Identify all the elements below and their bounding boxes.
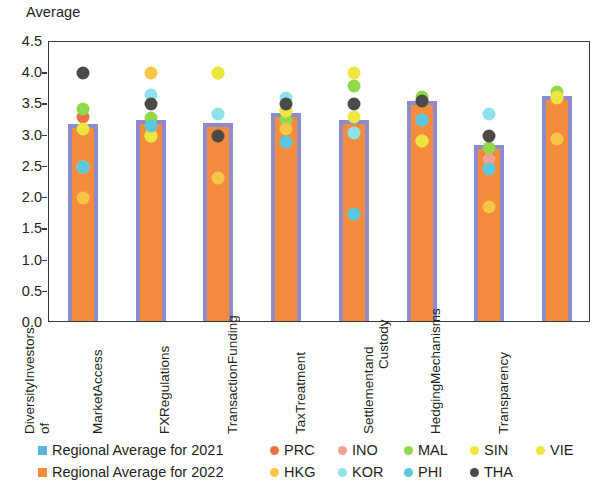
- y-axis-tick-mark: [42, 72, 47, 73]
- data-point-mal: [483, 142, 496, 155]
- legend-label: PHI: [418, 464, 442, 480]
- data-point-phi: [280, 135, 293, 148]
- data-point-tha: [347, 98, 360, 111]
- data-point-hkg: [483, 201, 496, 214]
- data-point-hkg: [212, 171, 225, 184]
- y-axis-tick-label: 2.0: [2, 190, 42, 205]
- y-axis-tick-label: 0.5: [2, 284, 42, 299]
- chart-legend: Regional Average for 2021PRCINOMALSINVIE…: [0, 440, 598, 485]
- data-point-kor: [483, 107, 496, 120]
- legend-dot-swatch-icon: [404, 446, 413, 455]
- legend-item-phi[interactable]: PHI: [404, 464, 442, 480]
- legend-item-vie[interactable]: VIE: [536, 442, 573, 458]
- bar-8: [542, 96, 572, 321]
- x-axis-label-line: Tax: [293, 413, 308, 434]
- legend-dot-swatch-icon: [338, 468, 347, 477]
- data-point-sin: [347, 67, 360, 80]
- data-point-kor: [212, 107, 225, 120]
- bar-1: [68, 124, 98, 321]
- data-point-phi: [483, 162, 496, 175]
- data-point-vie: [551, 92, 564, 105]
- data-point-hkg: [144, 67, 157, 80]
- y-axis-tick-label: 3.5: [2, 96, 42, 111]
- bar-5: [339, 120, 369, 321]
- data-point-phi: [144, 120, 157, 133]
- legend-row-1: Regional Average for 2021PRCINOMALSINVIE: [0, 442, 598, 462]
- y-axis-tick-label: 4.5: [2, 34, 42, 49]
- legend-item-tha[interactable]: THA: [470, 464, 513, 480]
- bar-3: [203, 123, 233, 321]
- x-axis-label-line: Mechanisms: [428, 308, 443, 384]
- data-point-hkg: [280, 123, 293, 136]
- legend-label: Regional Average for 2022: [52, 464, 223, 480]
- x-axis-label-line: Diversity of: [22, 382, 52, 434]
- data-point-hkg: [76, 192, 89, 205]
- legend-dot-swatch-icon: [470, 446, 479, 455]
- x-axis-label-line: Market: [90, 393, 105, 434]
- plot-area: [48, 41, 590, 322]
- legend-square-swatch-icon: [38, 446, 47, 455]
- y-axis-tick-mark: [42, 291, 47, 292]
- legend-dot-swatch-icon: [404, 468, 413, 477]
- x-axis-label-line: Treatment: [293, 352, 308, 413]
- legend-label: THA: [484, 464, 513, 480]
- x-axis-label-line: Settlement: [361, 369, 391, 434]
- legend-label: Regional Average for 2021: [52, 442, 223, 458]
- legend-item-kor[interactable]: KOR: [338, 464, 383, 480]
- x-axis-label-line: Transparency: [496, 352, 511, 434]
- data-point-tha: [144, 98, 157, 111]
- data-point-tha: [280, 98, 293, 111]
- legend-item-prc[interactable]: PRC: [270, 442, 315, 458]
- legend-dot-swatch-icon: [270, 446, 279, 455]
- legend-row-2: Regional Average for 2022HKGKORPHITHA: [0, 464, 598, 484]
- data-point-sin: [76, 123, 89, 136]
- legend-label: SIN: [484, 442, 508, 458]
- x-axis-label-line: and Custody: [361, 320, 391, 370]
- legend-item-regional-average-for-2021[interactable]: Regional Average for 2021: [38, 442, 223, 458]
- y-axis-tick-mark: [42, 228, 47, 229]
- legend-label: PRC: [284, 442, 315, 458]
- x-axis-label-line: Hedging: [428, 384, 443, 434]
- data-point-hkg: [551, 132, 564, 145]
- y-axis-tick-mark: [42, 260, 47, 261]
- y-axis-tick-mark: [42, 135, 47, 136]
- x-axis-label-line: Regulations: [157, 345, 172, 416]
- data-point-tha: [483, 129, 496, 142]
- data-point-vie: [415, 134, 428, 147]
- y-axis-tick-label: 4.0: [2, 65, 42, 80]
- data-point-tha: [415, 95, 428, 108]
- y-axis-tick-mark: [42, 166, 47, 167]
- y-axis-tick-label: 2.5: [2, 159, 42, 174]
- legend-item-ino[interactable]: INO: [338, 442, 378, 458]
- legend-item-regional-average-for-2022[interactable]: Regional Average for 2022: [38, 464, 223, 480]
- y-axis-tick-label: 1.0: [2, 253, 42, 268]
- legend-label: KOR: [352, 464, 383, 480]
- plot-inner: [49, 42, 589, 321]
- legend-dot-swatch-icon: [338, 446, 347, 455]
- x-axis-label-line: Investors: [22, 327, 52, 382]
- data-point-mal: [347, 79, 360, 92]
- legend-label: HKG: [284, 464, 315, 480]
- legend-item-hkg[interactable]: HKG: [270, 464, 315, 480]
- y-axis-tick-label: 1.5: [2, 221, 42, 236]
- data-point-kor: [347, 126, 360, 139]
- data-point-phi: [76, 160, 89, 173]
- bar-2: [136, 120, 166, 321]
- legend-label: VIE: [550, 442, 573, 458]
- data-point-tha: [76, 67, 89, 80]
- x-axis-label-line: FX: [157, 417, 172, 434]
- legend-label: INO: [352, 442, 378, 458]
- legend-dot-swatch-icon: [470, 468, 479, 477]
- y-axis-tick-mark: [42, 197, 47, 198]
- x-axis-label-8: Transparency: [496, 330, 598, 434]
- x-axis-label-line: Funding: [225, 315, 240, 364]
- chart-container: Average 4.54.03.53.02.52.01.51.00.50.0 D…: [0, 0, 598, 485]
- y-axis-tick-label: 3.0: [2, 128, 42, 143]
- data-point-phi: [415, 114, 428, 127]
- data-point-phi: [347, 207, 360, 220]
- y-axis-title: Average: [26, 4, 80, 20]
- x-axis-label-line: Transaction: [225, 364, 240, 434]
- legend-dot-swatch-icon: [270, 468, 279, 477]
- legend-item-mal[interactable]: MAL: [404, 442, 448, 458]
- legend-item-sin[interactable]: SIN: [470, 442, 508, 458]
